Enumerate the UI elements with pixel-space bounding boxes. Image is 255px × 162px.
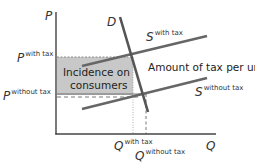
p-without-tax-label: Pwithout tax — [3, 90, 51, 102]
supply-with-tax-label: Swith tax — [146, 31, 183, 43]
x-axis-label: Q — [206, 140, 215, 152]
tax-per-unit-annotation: Amount of tax per unit — [148, 62, 255, 73]
demand-label: D — [107, 16, 116, 28]
y-axis-label: P — [45, 10, 52, 22]
incidence-label-line1: Incidence on — [63, 67, 130, 78]
incidence-label-line2: consumers — [70, 80, 127, 91]
tax-incidence-diagram: P Q D Swith tax Swithout tax Pwith tax P… — [0, 0, 255, 162]
p-with-tax-label: Pwith tax — [17, 52, 54, 64]
q-without-tax-label: Qwithout tax — [135, 150, 185, 162]
supply-without-tax-label: Swithout tax — [195, 86, 243, 98]
